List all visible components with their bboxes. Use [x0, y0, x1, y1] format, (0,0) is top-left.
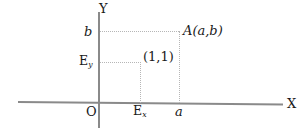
x-tick-label-ex-base: E	[133, 103, 142, 118]
x-tick-label-ex: Ex	[133, 105, 147, 119]
y-axis-line	[98, 12, 100, 128]
x-axis-label: X	[287, 97, 296, 110]
unit-point-label: (1,1)	[143, 50, 174, 63]
y-tick-label-ey-subscript: y	[88, 60, 92, 69]
point-a-label: A(a,b)	[183, 24, 223, 37]
guide-line-b-horizontal	[100, 31, 179, 32]
origin-label: O	[86, 105, 97, 118]
x-tick-label-a: a	[175, 105, 183, 118]
y-tick-label-b: b	[84, 25, 92, 38]
coordinate-diagram: Y X O b a Ey Ex A(a,b) (1,1)	[0, 0, 305, 128]
y-tick-label-ey: Ey	[79, 55, 93, 69]
x-axis-line	[18, 101, 283, 105]
guide-line-ex-vertical	[140, 62, 141, 103]
x-tick-label-ex-subscript: x	[142, 110, 146, 119]
y-tick-label-ey-base: E	[79, 53, 88, 68]
guide-line-ey-horizontal	[100, 62, 141, 63]
guide-line-a-vertical	[179, 31, 180, 103]
y-axis-label: Y	[99, 2, 108, 15]
